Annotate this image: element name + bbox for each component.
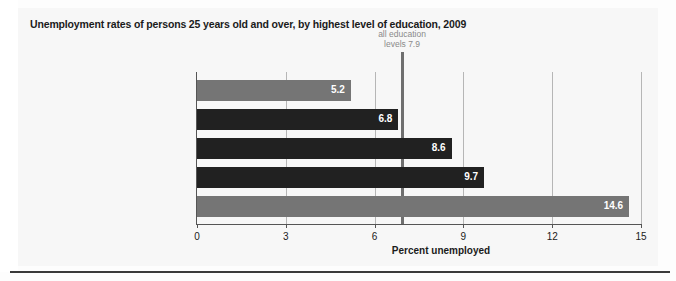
- gridline-15: [641, 72, 642, 224]
- bar-some-college-no-degree[interactable]: [197, 138, 452, 159]
- x-tick-15: [641, 224, 642, 228]
- annotation-line-1: all education: [378, 29, 426, 39]
- all-education-levels-annotation: all education levels 7.9: [378, 30, 426, 49]
- bar-value-label: 9.7: [464, 171, 484, 182]
- x-tick-label-6: 6: [372, 231, 378, 242]
- left-margin-band: [0, 0, 18, 272]
- x-tick-6: [375, 224, 376, 228]
- bar-high-school-graduate-no-college[interactable]: [197, 167, 484, 188]
- x-tick-3: [286, 224, 287, 228]
- bar-associates-degree[interactable]: [197, 109, 398, 130]
- x-axis-title: Percent unemployed: [219, 245, 663, 256]
- x-tick-9: [463, 224, 464, 228]
- bar-value-label: 8.6: [432, 142, 452, 153]
- x-tick-label-0: 0: [194, 231, 200, 242]
- bar-value-label: 6.8: [378, 113, 398, 124]
- bar-value-label: 14.6: [604, 200, 629, 211]
- chart-figure: Unemployment rates of persons 25 years o…: [0, 0, 676, 281]
- x-tick-12: [552, 224, 553, 228]
- x-axis-line: [196, 224, 642, 225]
- bar-less-than-high-school-graduate[interactable]: [197, 196, 629, 217]
- annotation-line-2: levels 7.9: [384, 39, 420, 49]
- plot-area: all education levels 7.9 Bachelor's degr…: [197, 72, 641, 224]
- bar-value-label: 5.2: [331, 84, 351, 95]
- x-tick-label-15: 15: [635, 231, 646, 242]
- bar-bachelors-degree-or-higher[interactable]: [197, 80, 351, 101]
- x-tick-label-3: 3: [283, 231, 289, 242]
- x-tick-0: [197, 224, 198, 228]
- x-tick-label-12: 12: [547, 231, 558, 242]
- x-tick-label-9: 9: [461, 231, 467, 242]
- bottom-rule: [10, 271, 670, 273]
